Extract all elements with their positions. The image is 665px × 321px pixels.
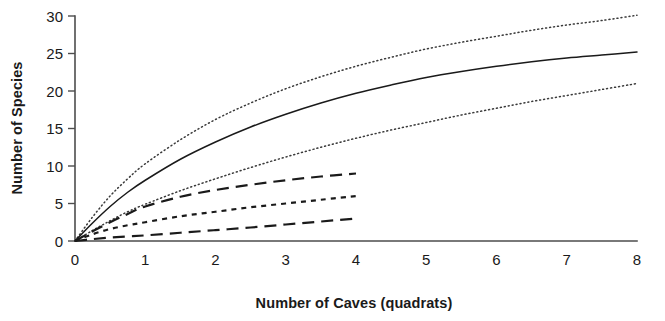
x-tick-label: 8: [633, 251, 641, 268]
x-tick-label: 0: [71, 251, 79, 268]
series-long-dash-lower-curve: [75, 219, 356, 242]
species-accumulation-chart: 051015202530 012345678 Number of Caves (…: [0, 0, 665, 321]
y-tick-label: 25: [46, 45, 63, 62]
x-tick-label: 6: [492, 251, 500, 268]
y-tick-label: 15: [46, 120, 63, 137]
y-tick-label: 20: [46, 83, 63, 100]
y-tick-label: 30: [46, 8, 63, 25]
data-series-group: [75, 15, 637, 241]
axes: 051015202530 012345678: [46, 8, 641, 269]
x-axis-title: Number of Caves (quadrats): [256, 295, 453, 311]
y-tick-label: 5: [55, 195, 63, 212]
series-mean-species-accumulation: [75, 52, 637, 241]
y-tick-label: 0: [55, 233, 63, 250]
x-tick-label: 2: [211, 251, 219, 268]
x-axis-ticks: 012345678: [71, 251, 641, 268]
chart-canvas: 051015202530 012345678 Number of Caves (…: [0, 0, 665, 321]
x-tick-label: 7: [563, 251, 571, 268]
x-tick-label: 1: [141, 251, 149, 268]
series-upper-confidence-band: [75, 15, 637, 241]
y-axis-ticks: 051015202530: [46, 8, 75, 250]
y-tick-label: 10: [46, 158, 63, 175]
series-lower-confidence-band: [75, 84, 637, 242]
x-tick-label: 3: [282, 251, 290, 268]
x-tick-label: 4: [352, 251, 360, 268]
y-axis-title: Number of Species: [9, 61, 25, 194]
x-tick-label: 5: [422, 251, 430, 268]
